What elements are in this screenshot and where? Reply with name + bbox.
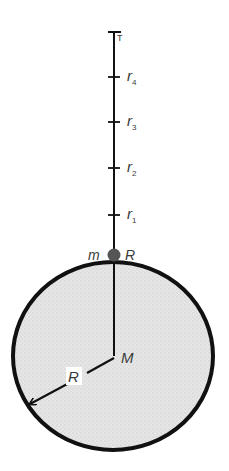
- label-r2: r2: [127, 158, 137, 178]
- center-mass-label: M: [121, 349, 134, 366]
- axis-top-label: T: [117, 33, 123, 43]
- particle-mass-label: m: [88, 247, 100, 263]
- gravity-diagram: T r4 r3 r2 r1 R M m R: [0, 0, 229, 471]
- particle-position-label: R: [125, 247, 135, 263]
- particle-dot: [108, 249, 121, 262]
- label-r3: r3: [127, 112, 137, 132]
- label-r4: r4: [127, 67, 137, 87]
- radius-label: R: [68, 368, 79, 385]
- label-r1: r1: [127, 205, 137, 225]
- particle: m R: [88, 247, 135, 263]
